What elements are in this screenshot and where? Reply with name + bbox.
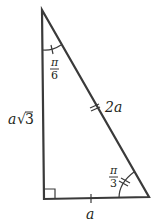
label-hypotenuse: 2a [104, 99, 122, 115]
label-vertical-sqrt: 3 [25, 111, 34, 127]
triangle-diagram: a √ 3 2a a π 6 π 3 [0, 0, 160, 224]
angle-top-numerator: π [50, 56, 59, 69]
triangle [42, 10, 149, 199]
label-base: a [86, 206, 94, 222]
angle-top-denominator: 6 [51, 69, 58, 82]
label-vertical-a: a [8, 111, 16, 127]
angle-br-denominator: 3 [110, 177, 117, 190]
right-angle-marker [44, 189, 55, 199]
angle-br-numerator: π [109, 164, 118, 177]
